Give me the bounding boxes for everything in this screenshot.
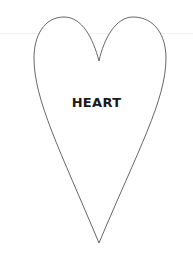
heart-template-canvas: HEART [0,0,193,259]
heart-outline-icon [0,0,193,259]
heart-label: HEART [0,95,193,111]
heart-outline-path [34,17,166,243]
